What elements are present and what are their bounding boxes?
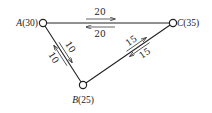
node-a-label: A(30) bbox=[15, 18, 38, 29]
node-c-label: C(35) bbox=[177, 18, 199, 29]
node-a-value: (30) bbox=[22, 18, 38, 29]
flow-label-b-to-c: 15 bbox=[124, 33, 139, 48]
flow-label-c-to-a: 20 bbox=[94, 29, 106, 39]
node-b-value: (25) bbox=[78, 95, 94, 106]
node-c-value: (35) bbox=[183, 18, 199, 29]
node-b bbox=[79, 81, 86, 88]
flow-label-a-to-c: 20 bbox=[94, 7, 106, 17]
node-c bbox=[169, 19, 176, 26]
node-b-label: B(25) bbox=[72, 95, 94, 106]
node-a bbox=[39, 19, 46, 26]
flow-label-c-to-b: 15 bbox=[137, 46, 152, 61]
network-diagram: 20 20 10 10 15 15 A(30) C(35) B(25) bbox=[0, 0, 212, 113]
